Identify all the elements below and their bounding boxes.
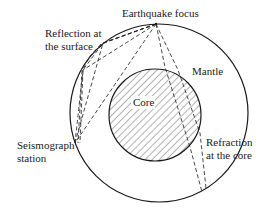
label-reflection-line2: the surface — [45, 40, 93, 52]
label-seismograph-line2: station — [17, 152, 47, 164]
label-reflection-line1: Reflection at — [45, 27, 102, 39]
earth-seismic-diagram: Earthquake focus Reflection at the surfa… — [0, 0, 264, 217]
label-earthquake-focus: Earthquake focus — [122, 7, 199, 19]
label-refraction-line2: at the core — [206, 149, 252, 161]
label-mantle: Mantle — [192, 65, 223, 77]
label-core: Core — [133, 96, 155, 108]
earthquake-focus-point — [155, 23, 157, 25]
label-refraction-line1: Refraction — [206, 136, 253, 148]
label-seismograph-line1: Seismograph — [17, 139, 75, 151]
